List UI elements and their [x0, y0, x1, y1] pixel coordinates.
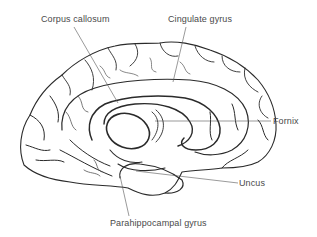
fornix-arc	[152, 110, 164, 142]
label-parahippocampal-gyrus: Parahippocampal gyrus	[110, 218, 207, 228]
cingulate-sulcus	[62, 79, 249, 155]
brain-diagram: Corpus callosum Cingulate gyrus Fornix U…	[0, 0, 317, 237]
leader-corpus-callosum	[74, 27, 118, 103]
thalamus	[102, 108, 155, 155]
leader-parahippocampal	[120, 176, 129, 216]
label-uncus: Uncus	[239, 178, 265, 188]
label-fornix: Fornix	[273, 116, 299, 126]
leader-uncus	[136, 171, 238, 183]
leader-cingulate-gyrus	[173, 27, 186, 82]
brain-illustration	[0, 0, 317, 237]
label-cingulate-gyrus: Cingulate gyrus	[168, 14, 232, 24]
label-corpus-callosum: Corpus callosum	[41, 14, 110, 24]
